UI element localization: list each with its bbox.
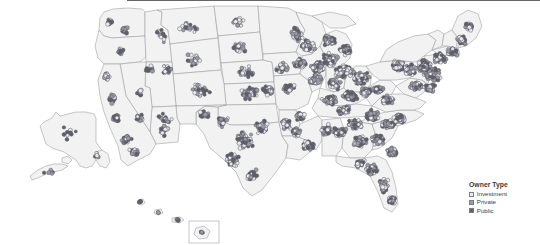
map-marker: [193, 91, 197, 95]
map-marker: [327, 51, 331, 55]
legend-swatch-public: [469, 208, 474, 213]
map-marker: [342, 48, 345, 51]
map-marker: [189, 23, 193, 27]
map-marker: [394, 66, 398, 70]
map-marker: [157, 115, 161, 119]
map-marker: [323, 43, 327, 47]
map-marker: [326, 128, 330, 132]
map-marker: [199, 91, 202, 94]
map-marker: [299, 116, 302, 119]
map-marker: [170, 117, 173, 120]
map-marker: [391, 199, 395, 203]
map-marker: [192, 61, 196, 65]
map-marker: [249, 133, 252, 136]
map-marker: [281, 122, 285, 126]
map-marker: [236, 44, 240, 48]
map-marker: [65, 137, 69, 141]
map-marker: [236, 162, 239, 165]
map-marker: [160, 28, 163, 31]
map-marker: [255, 88, 259, 92]
map-marker: [106, 75, 109, 78]
map-marker: [311, 142, 315, 146]
map-marker: [414, 86, 418, 90]
map-marker: [229, 152, 233, 156]
legend-item-private[interactable]: Private: [469, 199, 537, 205]
map-marker: [248, 86, 251, 89]
map-marker: [162, 65, 165, 68]
map-marker: [331, 82, 334, 85]
map-marker: [311, 66, 315, 70]
map-marker: [270, 90, 273, 93]
map-marker: [176, 218, 180, 222]
map-marker: [248, 93, 252, 97]
map-marker: [304, 48, 308, 52]
contiguous-us-states: [95, 6, 482, 212]
map-marker: [379, 86, 382, 89]
map-marker: [219, 117, 223, 121]
map-marker: [411, 70, 414, 73]
map-marker: [115, 116, 119, 120]
map-marker: [138, 88, 142, 92]
map-marker: [150, 69, 154, 73]
map-marker: [367, 168, 371, 172]
map-marker: [198, 110, 202, 114]
map-marker: [135, 152, 139, 156]
map-marker: [166, 120, 170, 124]
map-marker: [371, 136, 374, 139]
map-marker: [318, 75, 322, 79]
legend-item-investment[interactable]: Investment: [469, 191, 537, 197]
alaska-inset: [30, 112, 110, 180]
map-marker: [119, 49, 122, 52]
map-marker: [225, 118, 229, 122]
map-marker: [292, 61, 295, 64]
map-marker: [350, 95, 354, 99]
map-marker: [262, 88, 266, 92]
map-marker: [292, 83, 296, 87]
map-marker: [280, 66, 284, 70]
map-marker: [346, 69, 349, 72]
map-marker: [248, 98, 251, 101]
map-marker: [369, 173, 373, 177]
map-marker: [243, 138, 246, 141]
map-marker: [188, 26, 192, 30]
map-marker: [357, 123, 360, 126]
map-marker: [200, 230, 204, 234]
map-marker: [334, 131, 337, 134]
map-marker: [354, 123, 357, 126]
map-marker: [356, 141, 360, 145]
map-marker: [163, 127, 167, 131]
map-marker: [369, 108, 373, 112]
map-marker: [247, 143, 251, 147]
map-marker: [377, 116, 380, 119]
map-marker: [334, 100, 338, 104]
map-marker: [379, 134, 383, 138]
legend-item-public[interactable]: Public: [469, 208, 537, 214]
map-marker: [341, 94, 344, 97]
map-marker: [356, 162, 360, 166]
map-marker: [362, 140, 366, 144]
legend-swatch-investment: [469, 192, 474, 197]
map-canvas: [0, 0, 540, 245]
map-marker: [149, 64, 153, 68]
map-marker: [288, 88, 292, 92]
map-marker: [241, 141, 245, 145]
map-marker: [312, 78, 316, 82]
map-marker: [450, 51, 454, 55]
map-marker: [289, 83, 293, 87]
map-marker: [459, 37, 463, 41]
map-marker: [362, 91, 366, 95]
map-marker: [431, 83, 435, 87]
map-marker: [285, 68, 289, 72]
map-marker: [124, 27, 127, 30]
map-marker: [301, 36, 305, 40]
map-marker: [196, 83, 200, 87]
map-marker: [95, 154, 99, 158]
map-marker: [435, 58, 439, 62]
map-marker: [339, 71, 343, 75]
map-marker: [327, 132, 331, 136]
map-marker: [162, 38, 166, 42]
map-marker: [311, 41, 315, 45]
map-marker: [436, 76, 439, 79]
map-marker: [247, 65, 250, 68]
map-marker: [362, 82, 365, 85]
